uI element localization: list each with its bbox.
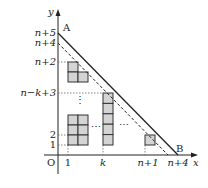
grid-column-k: [103, 93, 113, 145]
y-axis-label: y: [47, 6, 54, 17]
grid-bottom-left: [68, 115, 88, 145]
ellipsis-right: ⋯: [119, 119, 129, 130]
y-tick-n-plus-4: n+4: [35, 37, 56, 48]
ellipsis-mid: ⋯: [91, 121, 101, 132]
point-B-label: B: [176, 143, 183, 154]
x-tick-1: 1: [65, 157, 71, 168]
x-axis-label: x: [193, 157, 199, 168]
y-axis-arrow-icon: [56, 9, 61, 16]
origin-label: O: [47, 157, 55, 168]
point-A-label: A: [62, 22, 71, 33]
y-tick-n-plus-2: n+2: [35, 56, 56, 67]
grid-top-left: [68, 62, 88, 82]
x-tick-n-plus-1: n+1: [137, 157, 158, 168]
axes: [44, 9, 198, 174]
lattice-diagram: ⋯ ⋯ ⋮ y x O A B n+5 n+4 n+2 n−k+3 2 1 1 …: [0, 0, 208, 188]
x-tick-k: k: [100, 157, 106, 168]
vdots: ⋮: [75, 94, 85, 105]
x-tick-n-plus-4: n+4: [167, 157, 188, 168]
y-tick-1: 1: [50, 139, 56, 150]
y-tick-n-minus-k-plus-3: n−k+3: [20, 87, 56, 98]
